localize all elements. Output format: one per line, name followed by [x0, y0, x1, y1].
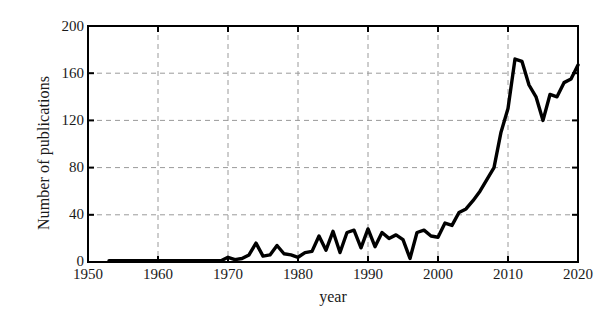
x-axis-title: year: [88, 288, 578, 306]
axes-frame: [88, 26, 578, 262]
x-tick-label-1990: 1990: [338, 266, 398, 283]
y-tick-label-40: 40: [48, 207, 84, 222]
gridlines: [88, 26, 578, 262]
publications-line-chart: Number of publications 200 160 120 80 40…: [0, 0, 613, 315]
y-tick-label-160: 160: [48, 66, 84, 81]
x-tick-label-1950: 1950: [58, 266, 118, 283]
axis-tick-marks: [88, 26, 578, 262]
y-tick-label-80: 80: [48, 160, 84, 175]
x-tick-label-1970: 1970: [198, 266, 258, 283]
y-tick-label-200: 200: [48, 19, 84, 34]
x-tick-label-2010: 2010: [478, 266, 538, 283]
x-tick-label-1980: 1980: [268, 266, 328, 283]
x-tick-label-2020: 2020: [548, 266, 608, 283]
x-tick-label-2000: 2000: [408, 266, 468, 283]
y-tick-label-120: 120: [48, 113, 84, 128]
x-tick-label-1960: 1960: [128, 266, 188, 283]
